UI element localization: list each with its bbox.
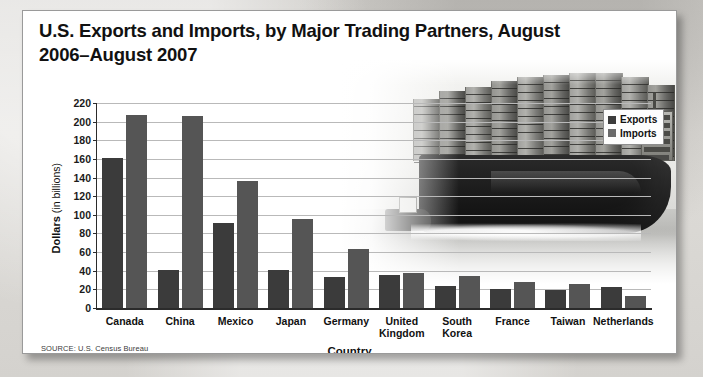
x-axis-tick-label: United Kingdom <box>379 315 425 340</box>
y-axis-tick-label: 60 <box>79 246 91 258</box>
x-axis-tick-label: Taiwan <box>551 315 586 327</box>
bar-group: Japan <box>263 103 318 308</box>
plot-area: 020406080100120140160180200220 CanadaChi… <box>97 103 651 308</box>
y-axis-tick-label: 140 <box>73 172 91 184</box>
bar-exports <box>490 289 511 308</box>
bar-group: Taiwan <box>540 103 595 308</box>
x-axis-tick-label: Canada <box>106 315 144 327</box>
y-axis-title-bold: Dollars <box>50 216 62 253</box>
bar-group: China <box>152 103 207 308</box>
bar-group: Mexico <box>208 103 263 308</box>
x-axis-tick-label: France <box>495 315 529 327</box>
bar-imports <box>126 115 147 308</box>
legend-swatch-exports <box>608 116 616 124</box>
bar-exports <box>158 270 179 308</box>
bar-group: South Korea <box>429 103 484 308</box>
bar-group: Germany <box>319 103 374 308</box>
bar-group: United Kingdom <box>374 103 429 308</box>
chart-card: U.S. Exports and Imports, by Major Tradi… <box>22 10 677 354</box>
bar-exports <box>545 290 566 308</box>
y-axis-tick-label: 100 <box>73 209 91 221</box>
legend-item-exports: Exports <box>608 113 657 127</box>
bar-group: Canada <box>97 103 152 308</box>
y-axis-tick-label: 40 <box>79 265 91 277</box>
bar-imports <box>348 249 369 308</box>
bar-imports <box>459 276 480 308</box>
y-axis-title-unit: (in billions) <box>50 163 62 216</box>
y-axis-tick-label: 200 <box>73 116 91 128</box>
x-axis-tick-label: Japan <box>276 315 306 327</box>
legend-swatch-imports <box>608 129 616 137</box>
bar-imports <box>514 282 535 308</box>
x-axis-tick-label: China <box>166 315 195 327</box>
bar-imports <box>625 296 646 308</box>
page-title: U.S. Exports and Imports, by Major Tradi… <box>39 19 599 68</box>
y-axis-tick-label: 120 <box>73 190 91 202</box>
y-axis-tick-label: 20 <box>79 283 91 295</box>
x-axis-tick-label: Germany <box>324 315 370 327</box>
bar-imports <box>182 116 203 308</box>
bar-exports <box>213 223 234 308</box>
legend-label-exports: Exports <box>620 113 657 127</box>
y-axis-tick-label: 220 <box>73 97 91 109</box>
bar-exports <box>102 158 123 308</box>
legend-label-imports: Imports <box>620 127 657 141</box>
x-axis-tick-label: South Korea <box>442 315 472 340</box>
y-axis-tick-label: 80 <box>79 227 91 239</box>
source-note: SOURCE: U.S. Census Bureau <box>41 344 148 353</box>
y-axis-title: Dollars (in billions) <box>50 163 62 253</box>
y-axis-tick-label: 160 <box>73 153 91 165</box>
bar-imports <box>569 284 590 308</box>
y-axis-tick-mark <box>93 308 97 309</box>
bar-group: France <box>485 103 540 308</box>
bar-exports <box>324 277 345 308</box>
bar-imports <box>237 181 258 308</box>
chart-legend: Exports Imports <box>603 109 664 145</box>
bar-exports <box>268 270 289 308</box>
legend-item-imports: Imports <box>608 127 657 141</box>
x-axis-tick-label: Mexico <box>218 315 254 327</box>
gridline <box>97 308 651 309</box>
bar-imports <box>292 219 313 308</box>
bar-exports <box>379 275 400 308</box>
bar-exports <box>601 287 622 308</box>
y-axis-tick-label: 0 <box>85 302 91 314</box>
bar-exports <box>435 286 456 308</box>
y-axis-tick-label: 180 <box>73 134 91 146</box>
x-axis-tick-label: Netherlands <box>593 315 654 327</box>
bar-groups: CanadaChinaMexicoJapanGermanyUnited King… <box>97 103 651 308</box>
bar-imports <box>403 273 424 308</box>
